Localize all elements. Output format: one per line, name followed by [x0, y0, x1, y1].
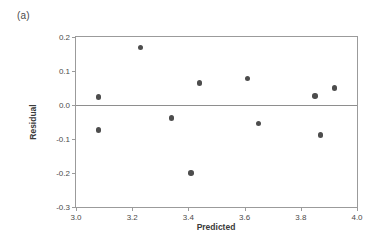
y-tick-label: 0.2 — [59, 33, 70, 42]
data-point — [138, 45, 144, 51]
y-tick-mark — [72, 139, 76, 140]
y-tick-label: 0.1 — [59, 67, 70, 76]
data-point — [197, 80, 203, 86]
data-point — [256, 121, 262, 127]
y-tick-mark — [72, 37, 76, 38]
y-tick-mark — [72, 71, 76, 72]
x-tick-label: 3.0 — [70, 213, 81, 222]
data-point — [245, 76, 251, 82]
data-point — [169, 115, 175, 121]
y-tick-mark — [72, 105, 76, 106]
x-axis-title: Predicted — [197, 222, 236, 232]
data-point — [96, 94, 102, 100]
figure-root: (a) Residual Predicted 0.20.10.0-0.1-0.2… — [0, 0, 381, 247]
y-tick-mark — [72, 173, 76, 174]
x-tick-label: 3.6 — [239, 213, 250, 222]
panel-label: (a) — [17, 10, 30, 21]
data-point — [188, 170, 194, 176]
x-tick-label: 3.8 — [295, 213, 306, 222]
y-tick-label: -0.2 — [56, 169, 70, 178]
x-tick-label: 3.4 — [183, 213, 194, 222]
plot-area: 0.20.10.0-0.1-0.2-0.3 3.03.23.43.63.84.0 — [75, 36, 358, 208]
x-tick-label: 4.0 — [351, 213, 362, 222]
data-point — [332, 85, 338, 91]
x-tick-label: 3.2 — [127, 213, 138, 222]
y-tick-label: -0.3 — [56, 203, 70, 212]
data-point — [96, 127, 102, 133]
x-tick-mark — [245, 207, 246, 211]
x-tick-mark — [357, 207, 358, 211]
x-tick-mark — [132, 207, 133, 211]
data-point — [318, 132, 324, 138]
x-tick-mark — [301, 207, 302, 211]
y-tick-label: 0.0 — [59, 101, 70, 110]
y-tick-label: -0.1 — [56, 135, 70, 144]
x-tick-mark — [76, 207, 77, 211]
data-point — [312, 93, 318, 99]
x-tick-mark — [188, 207, 189, 211]
zero-reference-line — [76, 105, 357, 106]
y-axis-title: Residual — [28, 104, 38, 139]
